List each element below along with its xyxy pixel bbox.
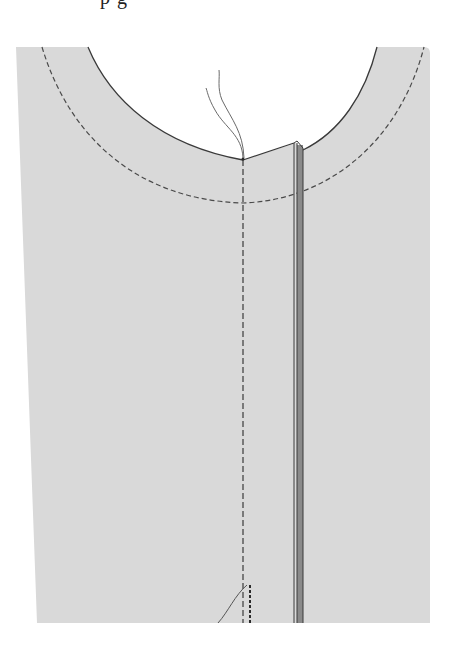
front-placket [297,145,303,623]
sewing-illustration [0,0,457,664]
thread-knot [242,158,245,161]
fabric-panel [16,47,430,623]
loose-thread-end-1 [206,88,243,158]
